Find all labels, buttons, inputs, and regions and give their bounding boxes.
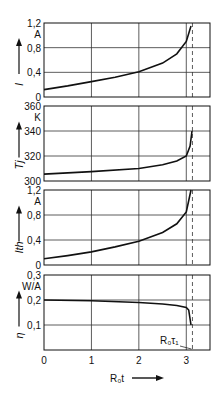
x-axis-label: R₀t [110, 373, 124, 384]
y-unit-label: K [34, 112, 41, 123]
data-curve [44, 26, 191, 90]
y-tick-label: 0,4 [27, 67, 41, 78]
y-tick-label: 340 [24, 126, 41, 137]
x-tick-label: 0 [41, 355, 47, 366]
panel-frame [44, 190, 210, 265]
y-tick-label: 320 [24, 151, 41, 162]
y-unit-label: A [34, 29, 41, 40]
y-axis-label: I [13, 83, 25, 86]
annotation-label: R₀τ₁ [160, 335, 179, 346]
arrow-right-icon [156, 375, 164, 381]
x-tick-label: 3 [184, 355, 190, 366]
y-axis-label: η [13, 332, 25, 338]
y-unit-label: W/A [22, 281, 41, 292]
y-tick-label: 360 [24, 101, 41, 112]
arrow-head-icon [16, 38, 22, 46]
y-tick-label: 1,2 [27, 185, 41, 196]
y-tick-label: 0,4 [27, 235, 41, 246]
y-tick-label: 0,2 [27, 295, 41, 306]
y-tick-label: 0,8 [27, 43, 41, 54]
data-curve [44, 190, 191, 259]
x-tick-label: 1 [89, 355, 95, 366]
y-axis-label: Ith [13, 241, 25, 253]
arrow-head-icon [16, 291, 22, 299]
y-tick-label: 1,2 [27, 18, 41, 29]
arrow-head-icon [16, 206, 22, 214]
x-tick-label: 2 [136, 355, 142, 366]
y-tick-label: 0,1 [27, 320, 41, 331]
arrow-head-icon [16, 122, 22, 130]
y-unit-label: A [34, 196, 41, 207]
annotation-leader [180, 346, 191, 349]
y-axis-label: Tj [13, 160, 25, 170]
data-curve [44, 131, 192, 174]
chart: 00,40,81,2AI300320340360KTj00,40,81,2AIt… [0, 0, 221, 397]
panel-frame [44, 275, 210, 350]
data-curve [44, 300, 191, 325]
y-tick-label: 0,8 [27, 210, 41, 221]
y-tick-label: 0,3 [27, 270, 41, 281]
